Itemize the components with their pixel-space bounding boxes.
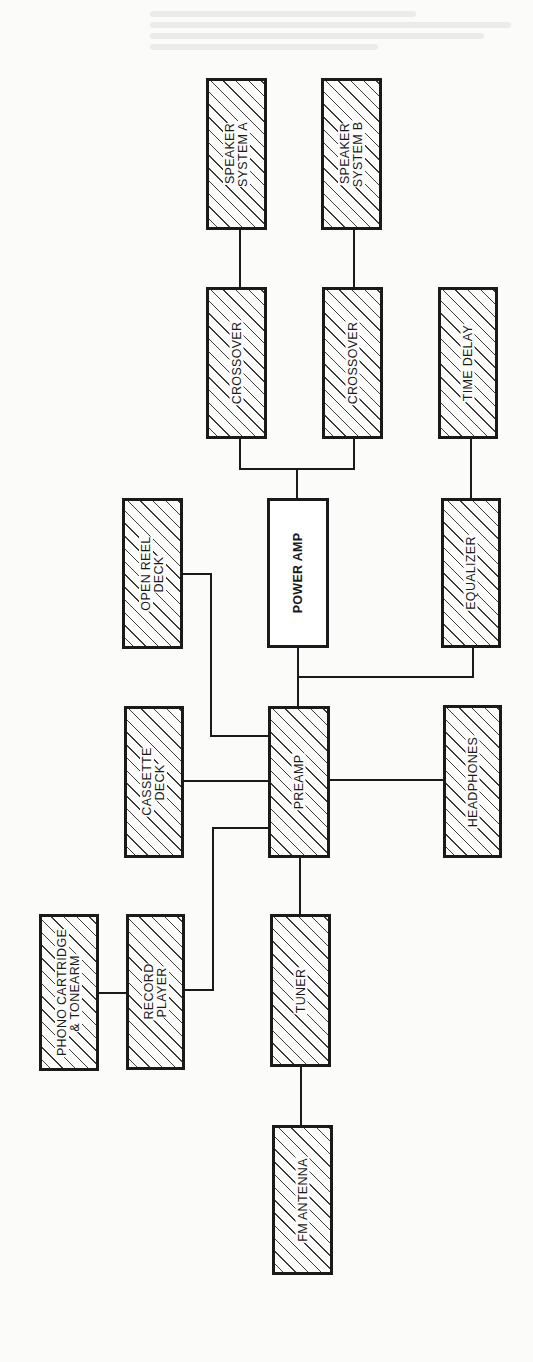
node-speaker-b: SPEAKER SYSTEM B [321, 78, 382, 230]
node-label: OPEN REEL DECK [140, 536, 166, 611]
node-label: PHONO CARTRIDGE & TONEARM [56, 928, 82, 1056]
node-label: SPEAKER SYSTEM A [224, 121, 250, 187]
node-label: SPEAKER SYSTEM B [339, 121, 365, 188]
connection-crossover_a-power_amp [240, 439, 354, 469]
node-preamp: PREAMP [268, 706, 330, 858]
node-cassette: CASSETTE DECK [124, 706, 184, 858]
node-speaker-a: SPEAKER SYSTEM A [206, 78, 267, 230]
node-label: POWER AMP [292, 532, 305, 615]
node-label: HEADPHONES [466, 735, 479, 828]
node-power-amp: POWER AMP [267, 498, 329, 648]
node-time-delay: TIME DELAY [438, 287, 498, 439]
node-label: FM ANTENNA [296, 1157, 309, 1243]
node-label: PREAMP [293, 754, 306, 811]
node-label: TUNER [294, 967, 307, 1014]
node-label: CASSETTE DECK [141, 747, 167, 816]
node-label: CROSSOVER [346, 321, 359, 406]
node-equalizer: EQUALIZER [441, 498, 501, 648]
node-label: TIME DELAY [462, 324, 475, 402]
node-crossover-a: CROSSOVER [206, 287, 267, 439]
node-label: CROSSOVER [230, 321, 243, 406]
audio-system-diagram: SPEAKER SYSTEM ASPEAKER SYSTEM BCROSSOVE… [0, 0, 533, 1362]
node-open-reel: OPEN REEL DECK [122, 498, 183, 649]
connection-open_reel-preamp [183, 574, 268, 736]
node-tuner: TUNER [270, 914, 331, 1067]
node-crossover-b: CROSSOVER [322, 287, 383, 439]
node-record-player: RECORD PLAYER [126, 914, 185, 1070]
connection-record_player-preamp [185, 828, 268, 990]
connection-equalizer-junction [298, 648, 473, 677]
node-phono: PHONO CARTRIDGE & TONEARM [39, 914, 99, 1071]
node-headphones: HEADPHONES [443, 705, 502, 858]
node-label: RECORD PLAYER [143, 964, 169, 1021]
node-fm-antenna: FM ANTENNA [272, 1125, 333, 1275]
node-label: EQUALIZER [465, 535, 478, 611]
